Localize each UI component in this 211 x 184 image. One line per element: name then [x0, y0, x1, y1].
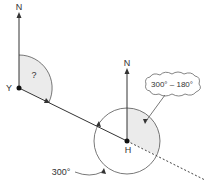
dotted-extension	[127, 141, 205, 180]
arrow-tip-h-lower	[101, 168, 106, 174]
north-label-h: N	[124, 58, 131, 68]
line-y-to-h	[19, 88, 127, 141]
point-h-label: H	[125, 145, 132, 155]
point-y	[17, 86, 22, 91]
leader-300	[75, 172, 102, 175]
angle-label-300: 300°	[52, 167, 71, 177]
bearing-diagram: N N Y H ? 300° 300° – 180°	[0, 0, 211, 184]
cloud-pointer	[146, 95, 165, 121]
north-arrow-y-icon	[17, 12, 22, 18]
cloud-label: 300° – 180°	[151, 80, 193, 89]
unknown-angle-label: ?	[31, 70, 36, 80]
point-y-label: Y	[6, 83, 12, 93]
point-h	[125, 139, 130, 144]
north-arrow-h-icon	[125, 68, 130, 74]
north-label-y: N	[16, 2, 23, 12]
angle-sector-h	[127, 108, 160, 155]
